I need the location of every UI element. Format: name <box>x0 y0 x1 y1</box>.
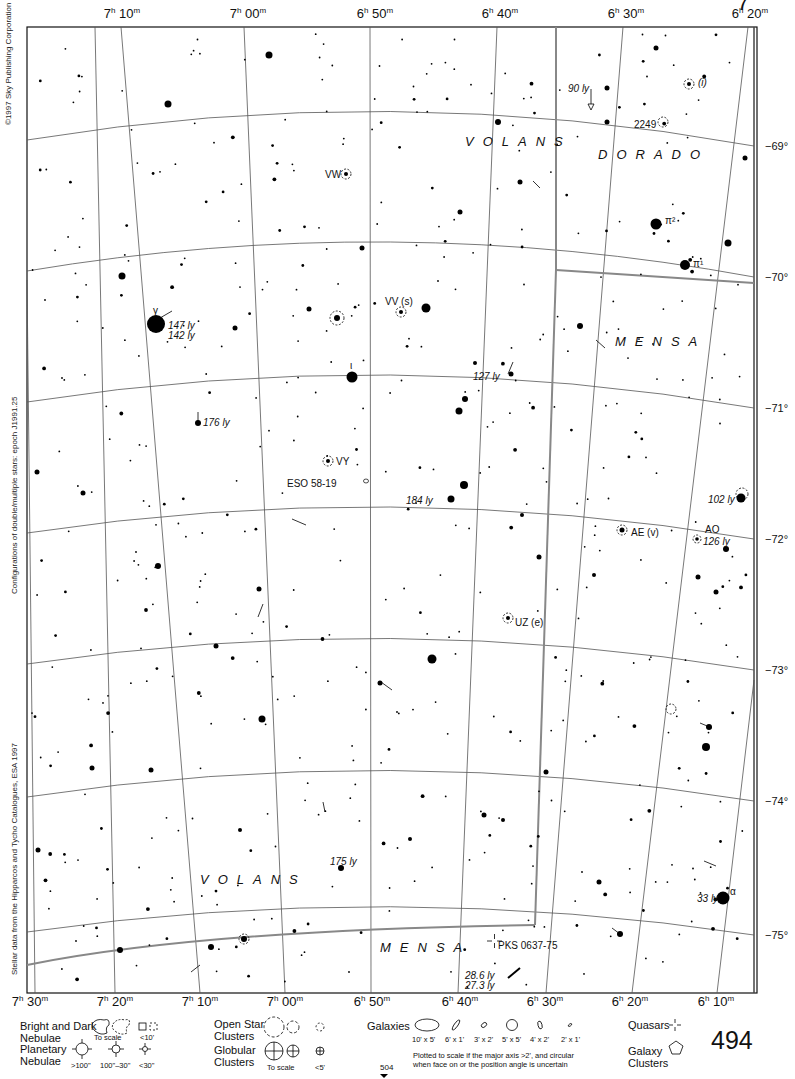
galaxy-size-label: 3' x 2' <box>474 1035 493 1044</box>
legend-globular: Globular Clusters <box>214 1044 256 1068</box>
ra-label: 6h 20m <box>612 994 648 1009</box>
continued-page-link[interactable]: 504 <box>380 1063 393 1072</box>
page-number: 494 <box>711 1026 753 1055</box>
object-label: (i) <box>698 77 707 88</box>
object-label: ESO 58-19 <box>287 478 336 489</box>
legend-globular-small: <5' <box>315 1063 325 1072</box>
object-label: γ <box>153 305 158 316</box>
object-label: 127 ly <box>473 371 500 382</box>
copyright-credit: ©1997 Sky Publishing Corporation <box>4 3 13 125</box>
object-label: 176 ly <box>203 417 230 428</box>
constellation-boundaries <box>27 27 754 965</box>
object-label: 184 ly <box>406 495 433 506</box>
map-frame <box>27 27 757 993</box>
dec-label: −70° <box>765 271 788 283</box>
object-label: 90 ly <box>568 83 589 94</box>
legend-planetary-size-2: 100"–30" <box>100 1061 130 1070</box>
legend-galaxy-clusters: Galaxy Clusters <box>628 1045 668 1069</box>
object-label: 126 ly <box>703 536 730 547</box>
legend-nebulae-small: <10' <box>140 1033 154 1042</box>
object-label: π¹ <box>693 258 703 269</box>
legend-galaxy-note-2: when face on or the position angle is un… <box>413 1060 568 1069</box>
ra-label: 6h 30m <box>608 6 644 21</box>
legend-planetary: Planetary Nebulae <box>20 1043 66 1067</box>
stars <box>35 46 748 954</box>
object-label: UZ (e) <box>515 617 543 628</box>
object-label: ι <box>350 360 352 371</box>
object-label: 27.3 ly <box>465 980 494 991</box>
legend-nebulae: Bright and Dark Nebulae <box>20 1020 96 1044</box>
star-iota <box>347 372 358 383</box>
variable-star-rings <box>239 79 748 944</box>
ra-grid-lines <box>27 27 754 993</box>
dec-label: −73° <box>765 664 788 676</box>
ra-label: 7h 00m <box>267 994 303 1009</box>
object-label: PKS 0637-75 <box>498 940 558 951</box>
object-label: VW <box>325 169 341 180</box>
object-label: VY <box>336 456 349 467</box>
dec-label: −75° <box>765 929 788 941</box>
ra-label: 7h 10m <box>182 994 218 1009</box>
ra-label: 7h 00m <box>230 6 266 21</box>
dec-label: −69° <box>765 140 788 152</box>
ra-label: 6h 40m <box>482 6 518 21</box>
object-label: π² <box>665 215 675 226</box>
legend-open-clusters: Open Star Clusters <box>214 1018 264 1042</box>
page-ref-arrow-icon <box>380 1074 388 1078</box>
object-label: VV (s) <box>385 296 413 307</box>
dec-label: −71° <box>765 402 788 414</box>
legend-globular-scale: To scale <box>267 1063 295 1072</box>
constellation-name: VOLANS <box>465 134 572 149</box>
ra-label: 7h 20m <box>97 994 133 1009</box>
object-label: α <box>730 886 736 897</box>
object-label: AO <box>705 524 719 535</box>
ra-label: 7h 30m <box>12 994 48 1009</box>
constellation-name: MENSA <box>615 334 706 349</box>
legend-planetary-size-1: >100" <box>71 1061 91 1070</box>
ra-label: 6h 50m <box>354 994 390 1009</box>
object-label: 2249 <box>634 119 656 130</box>
dec-label: −74° <box>765 795 788 807</box>
constellation-name: MENSA <box>380 940 471 955</box>
legend-galaxies: Galaxies <box>367 1020 410 1032</box>
legend-nebulae-scale: To scale <box>94 1033 122 1042</box>
galaxy-size-label: 6' x 1' <box>445 1035 464 1044</box>
star-alpha <box>717 892 730 905</box>
dec-label: −72° <box>765 533 788 545</box>
double-star-credit: Configurations of double/multiple stars:… <box>10 397 19 594</box>
galaxy-size-label: 2' x 1' <box>561 1035 580 1044</box>
star-pi1 <box>680 260 690 270</box>
galaxy-size-label: 10' x 5' <box>412 1035 435 1044</box>
galaxy-size-label: 4' x 2' <box>530 1035 549 1044</box>
object-label: 33 ly <box>697 893 718 904</box>
constellation-name: VOLANS <box>200 872 307 887</box>
object-label: 102 ly <box>708 494 735 505</box>
ra-label: 6h 10m <box>698 994 734 1009</box>
dec-grid-lines <box>27 111 754 935</box>
galaxy-size-label: 5' x 5' <box>502 1035 521 1044</box>
star-gamma <box>147 315 165 333</box>
page-corner-mark: 7 <box>737 0 749 16</box>
ra-label: 7h 10m <box>104 6 140 21</box>
stellar-data-credit: Stellar data from the Hipparcos and Tych… <box>10 743 19 975</box>
ra-label: 6h 40m <box>442 994 478 1009</box>
object-label: 175 ly <box>330 856 357 867</box>
object-label: AE (v) <box>631 527 659 538</box>
legend-quasars: Quasars <box>628 1019 670 1031</box>
faint-stars <box>31 33 747 988</box>
galaxy-eso-58-19 <box>364 479 369 483</box>
open-cluster-2249 <box>658 117 668 127</box>
object-label: 142 ly <box>168 330 195 341</box>
ra-label: 6h 30m <box>527 994 563 1009</box>
ra-label: 6h 50m <box>357 6 393 21</box>
constellation-name: DORADO <box>598 147 709 162</box>
star-pi2 <box>651 219 662 230</box>
legend-galaxy-note-1: Plotted to scale if the major axis >2', … <box>413 1051 574 1060</box>
legend-planetary-size-3: <30" <box>139 1061 154 1070</box>
